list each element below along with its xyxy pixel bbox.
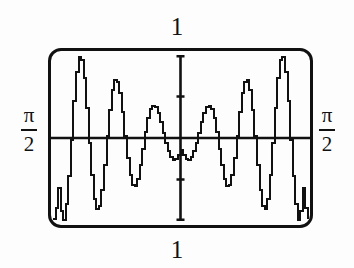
fraction-bar: [21, 129, 38, 131]
fraction-numerator: π: [21, 105, 38, 128]
y-max-label: 1: [0, 14, 354, 39]
x-min-label: π 2: [12, 105, 46, 156]
y-min-label: 1: [0, 237, 354, 262]
fraction-denominator: 2: [319, 133, 336, 156]
x-max-label: π 2: [310, 105, 344, 156]
plot-area: [51, 51, 310, 225]
fraction-denominator: 2: [21, 133, 38, 156]
fraction-bar: [319, 129, 336, 131]
fraction-numerator: π: [319, 105, 336, 128]
pi-over-two-fraction-left: π 2: [21, 105, 38, 156]
calculator-screen: [48, 48, 313, 228]
pi-over-two-fraction-right: π 2: [319, 105, 336, 156]
calculator-graph-figure: 1 π 2 π 2 1: [0, 0, 354, 268]
